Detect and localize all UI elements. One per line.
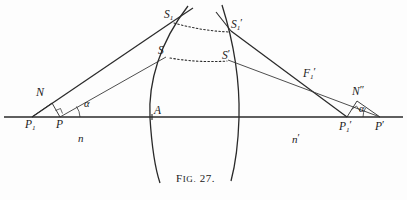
label-medium-n-prime: n′ — [292, 133, 300, 145]
label-Ndoubleprime-base: N — [352, 85, 360, 97]
optics-figure-27: N P1 P α n A S1 S S1′ S′ F1′ N″ P1′ P′ α… — [0, 0, 407, 200]
nodal-left-segment-p1-to-n — [32, 103, 52, 117]
label-A: A — [154, 105, 161, 117]
label-Ndoubleprime-mark: ″ — [360, 83, 365, 95]
figure-caption-prefix: F — [176, 172, 183, 184]
label-alpha-right: α — [359, 104, 364, 114]
label-alpha-left: α — [84, 99, 90, 110]
label-N-double-prime: N″ — [352, 84, 364, 97]
label-P1-base: P — [25, 118, 32, 130]
label-P1-prime: P1′ — [339, 119, 352, 134]
figure-drawing-canvas — [0, 0, 407, 200]
label-S1-subscript: 1 — [170, 14, 174, 22]
label-P1: P1 — [25, 119, 36, 132]
label-medium-n: n — [78, 133, 84, 144]
label-N: N — [36, 86, 44, 98]
dotted-line-s-to-sprime — [170, 58, 227, 62]
angle-arc-alpha-left — [77, 107, 81, 118]
label-S-prime: S′ — [222, 48, 230, 61]
label-S: S — [158, 45, 164, 57]
ray-p1-to-s1 — [32, 22, 172, 117]
label-P: P — [56, 119, 63, 131]
label-P1-subscript: 1 — [32, 124, 36, 132]
label-P1prime-mark: ′ — [350, 118, 352, 130]
label-Pprime-mark: ′ — [382, 118, 384, 130]
figure-caption-smallcaps: IG. — [183, 174, 197, 184]
label-Sprime-mark: ′ — [228, 47, 230, 59]
label-F1prime-base: F — [303, 67, 310, 79]
ray-s1prime-to-p1prime — [231, 31, 347, 117]
ray-s1-extension-upper — [172, 8, 193, 22]
figure-caption: FIG. 27. — [176, 172, 215, 184]
label-P1prime-base: P — [339, 120, 346, 132]
label-S1prime-mark: ′ — [240, 16, 242, 28]
figure-caption-number: 27. — [200, 172, 216, 184]
label-P-prime: P′ — [375, 119, 384, 132]
label-F1prime-mark: ′ — [314, 65, 316, 77]
label-S1-prime: S1′ — [231, 17, 243, 32]
label-S1: S1 — [164, 9, 173, 22]
ray-s1prime-extension-upper — [216, 12, 231, 31]
label-Pprime-base: P — [375, 120, 382, 132]
dotted-line-s1-to-s1prime — [174, 23, 230, 32]
label-nprime-mark: ′ — [298, 132, 300, 143]
label-F1-prime: F1′ — [303, 66, 316, 81]
